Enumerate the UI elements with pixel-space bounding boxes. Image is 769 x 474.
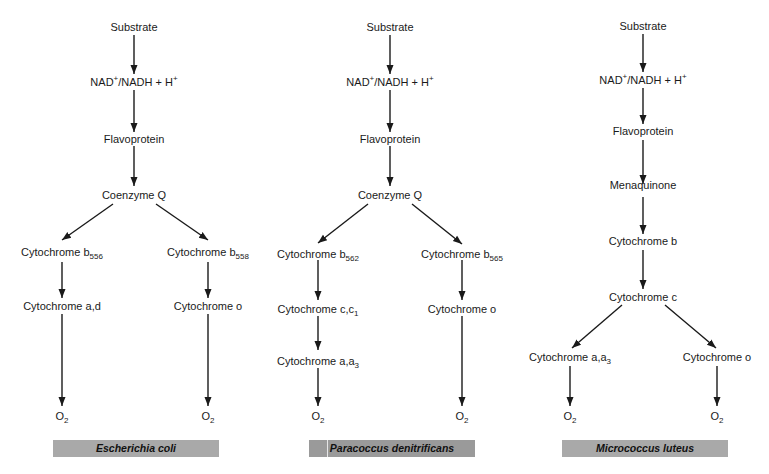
node-substrate: Substrate [110,21,157,34]
node-cytochrome-o: Cytochrome o [174,300,242,313]
node-cytochrome-b556: Cytochrome b556 [21,246,103,259]
node-o2-right: O2 [201,410,214,423]
node-substrate: Substrate [366,21,413,34]
node-menaquinone: Menaquinone [610,179,677,192]
node-o2-left: O2 [55,410,68,423]
node-cytochrome-c: Cytochrome c [609,291,677,304]
node-cytochrome-cc1: Cytochrome c,c1 [278,303,359,316]
node-nad: NAD+/NADH + H+ [346,76,433,89]
node-o2-right: O2 [710,410,723,423]
organism-label: Escherichia coli [53,440,219,457]
node-cytochrome-b558: Cytochrome b558 [167,246,249,259]
node-o2-left: O2 [311,410,324,423]
node-cytochrome-aa3: Cytochrome a,a3 [529,351,611,364]
node-substrate: Substrate [619,20,666,33]
node-flavoprotein: Flavoprotein [104,133,165,146]
organism-label: Micrococcus luteus [562,440,728,457]
node-nad: NAD+/NADH + H+ [599,74,686,87]
node-coenzyme-q: Coenzyme Q [358,189,422,202]
node-o2-left: O2 [563,410,576,423]
node-flavoprotein: Flavoprotein [360,133,421,146]
node-cytochrome-b562: Cytochrome b562 [277,248,359,261]
node-cytochrome-b: Cytochrome b [609,235,677,248]
node-flavoprotein: Flavoprotein [613,125,674,138]
node-cytochrome-aa3: Cytochrome a,a3 [277,355,359,368]
node-cytochrome-b565: Cytochrome b565 [421,248,503,261]
label-divider [327,440,328,457]
node-cytochrome-o: Cytochrome o [428,303,496,316]
node-nad: NAD+/NADH + H+ [90,76,177,89]
node-coenzyme-q: Coenzyme Q [102,189,166,202]
node-cytochrome-ad: Cytochrome a,d [23,300,101,313]
organism-label: Paracoccus denitrificans [309,440,475,457]
organism-name: Paracoccus denitrificans [330,442,454,454]
node-cytochrome-o: Cytochrome o [683,351,751,364]
node-o2-right: O2 [455,410,468,423]
